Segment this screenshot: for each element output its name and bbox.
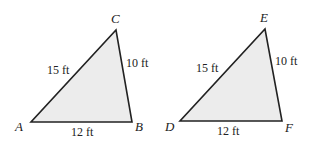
triangle-def: E D F 15 ft 10 ft 12 ft [164,10,298,138]
vertex-label-e: E [259,10,268,25]
vertex-label-f: F [284,120,294,135]
vertex-label-c: C [111,11,120,26]
triangle-abc: C A B 15 ft 10 ft 12 ft [14,11,149,139]
side-label-de: 15 ft [196,61,219,75]
vertex-label-b: B [135,119,143,134]
side-label-ab: 12 ft [71,125,94,139]
side-label-ef: 10 ft [275,54,298,68]
vertex-label-a: A [14,119,23,134]
triangle-def-shape [180,29,282,121]
side-label-df: 12 ft [217,124,240,138]
congruent-triangles-diagram: C A B 15 ft 10 ft 12 ft E D F 15 ft 10 f… [0,0,314,149]
side-label-cb: 10 ft [126,56,149,70]
vertex-label-d: D [164,119,175,134]
side-label-ac: 15 ft [47,63,70,77]
